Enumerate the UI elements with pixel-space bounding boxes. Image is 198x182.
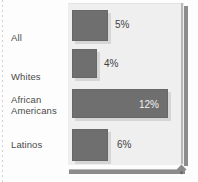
- bar-whites: [72, 49, 97, 78]
- axis-end-dot-icon: [180, 171, 183, 174]
- category-label-column: All Whites African Americans Latinos: [0, 0, 68, 182]
- category-label-whites: Whites: [11, 71, 71, 83]
- bar-whites-fill: [72, 49, 97, 78]
- category-label-latinos: Latinos: [11, 139, 71, 151]
- category-label-african-americans-line1: African: [11, 94, 71, 106]
- bar-value-all: 5%: [115, 19, 129, 30]
- bar-latinos: [72, 129, 108, 161]
- plot-right-shadow: [184, 6, 188, 166]
- bar-latinos-fill: [72, 129, 108, 161]
- x-axis-line: [69, 170, 185, 174]
- bar-value-whites: 4%: [104, 58, 118, 69]
- category-label-african-americans-line2: Americans: [11, 105, 71, 117]
- bar-value-latinos: 6%: [117, 139, 131, 150]
- bar-all: [72, 10, 108, 41]
- bar-chart: All Whites African Americans Latinos 5% …: [0, 0, 198, 182]
- category-label-all: All: [11, 32, 71, 44]
- bar-value-african-americans: 12%: [139, 99, 159, 110]
- plot-right-edge: [181, 3, 183, 164]
- bar-all-fill: [72, 10, 108, 41]
